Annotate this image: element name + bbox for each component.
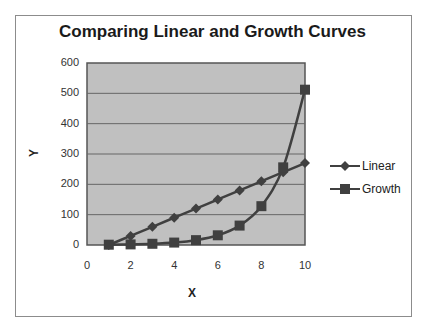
square-marker-icon (330, 183, 360, 195)
legend-item-linear: Linear (330, 154, 401, 177)
legend-item-growth: Growth (330, 177, 401, 200)
legend: Linear Growth (330, 154, 401, 200)
diamond-marker-icon (330, 160, 360, 172)
legend-label: Linear (362, 159, 395, 173)
legend-label: Growth (362, 182, 401, 196)
